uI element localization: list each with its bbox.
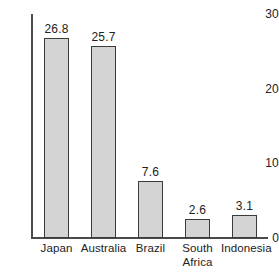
x-category-label-line: South [174,242,221,256]
bar-group: 2.6 [185,14,209,238]
bar [138,181,162,238]
x-category-label-line: Japan [33,242,80,256]
plot-area: 26.825.77.62.63.1 [33,14,268,238]
bar-chart: 0102030 26.825.77.62.63.1 JapanAustralia… [0,0,279,277]
bar-value-label: 26.8 [44,23,68,35]
bar-group: 3.1 [232,14,256,238]
x-category-label-line: Indonesia [221,242,268,256]
bar [91,46,115,238]
bar-group: 25.7 [91,14,115,238]
x-category-label: SouthAfrica [174,242,221,269]
x-category-label-line: Australia [80,242,127,256]
bar-value-label: 25.7 [91,31,115,43]
bar-value-label: 3.1 [236,200,253,212]
bar [232,215,256,238]
bar-value-label: 7.6 [142,166,159,178]
x-category-label: Brazil [127,242,174,256]
bar-group: 7.6 [138,14,162,238]
x-axis-category-labels: JapanAustraliaBrazilSouthAfricaIndonesia [33,242,268,276]
bar [44,38,68,238]
x-category-label: Japan [33,242,80,256]
bar [185,219,209,238]
x-category-label: Indonesia [221,242,268,256]
bar-group: 26.8 [44,14,68,238]
x-category-label-line: Africa [174,256,221,270]
bar-value-label: 2.6 [189,204,206,216]
x-category-label-line: Brazil [127,242,174,256]
x-category-label: Australia [80,242,127,256]
